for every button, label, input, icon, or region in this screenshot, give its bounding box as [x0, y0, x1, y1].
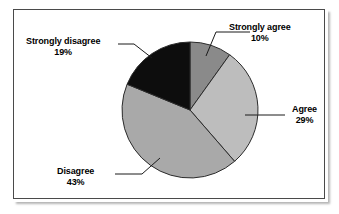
- slice-label-agree-name: Agree: [292, 104, 317, 114]
- slice-label-strongly-agree-name: Strongly agree: [229, 22, 291, 32]
- slice-label-disagree-percent: 43%: [57, 177, 94, 188]
- slice-label-strongly-disagree-name: Strongly disagree: [26, 36, 100, 46]
- slice-label-agree-percent: 29%: [292, 115, 317, 126]
- slice-label-disagree: Disagree 43%: [57, 166, 94, 188]
- slice-label-strongly-agree-percent: 10%: [229, 33, 291, 44]
- slice-label-agree: Agree 29%: [292, 104, 317, 126]
- screenshot-root: Strongly agree 10% Strongly disagree 19%…: [0, 0, 339, 214]
- slice-label-strongly-disagree-percent: 19%: [26, 47, 100, 58]
- leader-line-strongly-disagree: [118, 44, 152, 58]
- slice-label-disagree-name: Disagree: [57, 166, 94, 176]
- slice-label-strongly-agree: Strongly agree 10%: [229, 22, 291, 44]
- slice-label-strongly-disagree: Strongly disagree 19%: [26, 36, 100, 58]
